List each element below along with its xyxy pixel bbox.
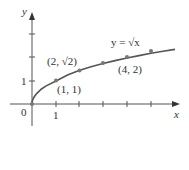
x-tick-label-1: 1 (53, 110, 59, 121)
point-label-4-2: (4, 2) (118, 64, 142, 75)
sqrt-chart (0, 0, 189, 170)
y-tick-label-1: 1 (21, 76, 27, 87)
y-axis-arrow-icon (29, 12, 35, 20)
x-axis-label: x (174, 109, 179, 120)
curve-label: y = √x (111, 37, 140, 48)
point-label-1-1: (1, 1) (57, 84, 81, 95)
origin-label: 0 (21, 107, 27, 118)
y-axis-label: y (22, 6, 27, 17)
point-label-2-sqrt2: (2, √2) (47, 56, 77, 67)
x-axis-arrow-icon (172, 101, 180, 107)
